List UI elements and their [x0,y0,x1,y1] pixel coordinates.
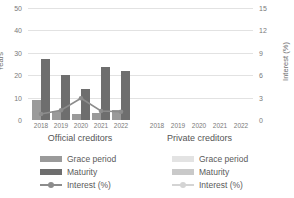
legend-official: Grace period Maturity Interest (%) [40,152,160,191]
legend-swatch-maturity-official [40,169,62,175]
legend-private: Grace period Maturity Interest (%) [172,152,292,191]
legend-swatch-grace-private [172,156,194,162]
y-tick-20: 20 [0,72,22,79]
legend-item-interest-private[interactable]: Interest (%) [172,178,292,191]
legend-label-interest-official: Interest (%) [67,180,111,190]
panel-private-creditors [146,8,253,120]
x-tick-official-2020: 2020 [71,122,91,130]
chart-container: 50 40 30 20 10 0 15 12 9 6 3 0 Years Int… [0,0,294,198]
y2-tick-3: 3 [259,95,275,102]
legend-label-grace-official: Grace period [67,154,116,164]
legend-item-grace-private[interactable]: Grace period [172,152,292,165]
y-tick-40: 40 [0,27,22,34]
legend-swatch-interest-private [172,181,194,188]
y-tick-10: 10 [0,95,22,102]
x-tick-private-2021: 2021 [210,122,230,130]
x-tick-private-2019: 2019 [168,122,188,130]
panel-official-creditors [28,8,132,120]
y-axis-right-title: Interest (%) [281,42,290,81]
x-tick-private-2022: 2022 [231,122,251,130]
interest-point-2021 [99,109,104,114]
panel-title-private: Private creditors [146,133,253,144]
legend-label-grace-private: Grace period [199,154,248,164]
legend-label-maturity-official: Maturity [67,167,97,177]
x-tick-official-2021: 2021 [91,122,111,130]
x-tick-labels-official: 2018 2019 2020 2021 2022 [28,122,132,132]
interest-point-2018 [39,112,44,117]
x-tick-official-2022: 2022 [111,122,131,130]
y2-tick-12: 12 [259,27,275,34]
y2-tick-9: 9 [259,50,275,57]
interest-line-official [28,8,132,120]
x-tick-labels-private: 2018 2019 2020 2021 2022 [146,122,253,132]
x-tick-official-2019: 2019 [51,122,71,130]
interest-point-2022 [119,110,124,115]
legend-label-maturity-private: Maturity [199,167,229,177]
x-tick-private-2018: 2018 [147,122,167,130]
interest-point-2019 [59,108,64,113]
legend-label-interest-private: Interest (%) [199,180,243,190]
legend-item-interest-official[interactable]: Interest (%) [40,178,160,191]
legend-swatch-interest-official [40,181,62,188]
legend-item-grace-official[interactable]: Grace period [40,152,160,165]
y-tick-50: 50 [0,5,22,12]
legend-item-maturity-private[interactable]: Maturity [172,165,292,178]
y-tick-0: 0 [0,117,22,124]
y2-tick-15: 15 [259,5,275,12]
plot-area [28,8,253,120]
x-tick-official-2018: 2018 [31,122,51,130]
y2-tick-6: 6 [259,72,275,79]
interest-point-2020 [79,96,84,101]
interest-polyline-official [41,98,121,114]
y-axis-left-title: Years [0,52,5,71]
legend-item-maturity-official[interactable]: Maturity [40,165,160,178]
y2-tick-0: 0 [259,117,275,124]
panel-title-official: Official creditors [28,133,132,144]
x-tick-private-2020: 2020 [189,122,209,130]
legend-swatch-grace-official [40,156,62,162]
legend-swatch-maturity-private [172,169,194,175]
